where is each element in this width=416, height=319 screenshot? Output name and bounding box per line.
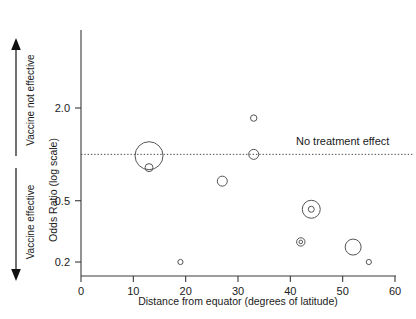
- vaccine-effective-label: Vaccine effective: [25, 184, 36, 259]
- data-point: [345, 239, 361, 255]
- data-point: [145, 164, 153, 172]
- vaccine-not-effective-label: Vaccine not effective: [25, 54, 36, 146]
- vaccine-effective-annotation: Vaccine effective: [11, 168, 36, 281]
- axis-group: [81, 30, 396, 276]
- data-point: [217, 176, 227, 186]
- x-axis-title: Distance from equator (degrees of latitu…: [138, 295, 338, 307]
- down-arrow-head: [11, 269, 21, 281]
- data-point: [251, 115, 257, 121]
- data-point: [366, 259, 371, 264]
- data-point: [297, 238, 305, 246]
- y-tick-label: 0.2: [55, 256, 70, 268]
- data-point: [308, 206, 314, 212]
- data-point: [178, 259, 183, 264]
- y-tick-label: 2.0: [55, 102, 70, 114]
- data-point: [135, 142, 163, 170]
- data-point: [302, 200, 320, 218]
- x-tick-label: 60: [389, 285, 401, 297]
- x-tick-label: 50: [337, 285, 349, 297]
- up-arrow-head: [11, 38, 21, 50]
- data-point: [299, 240, 303, 244]
- chart-figure: 0102030405060 2.00.50.2 No treatment eff…: [0, 0, 416, 319]
- scatter-plot-canvas: 0102030405060 2.00.50.2 No treatment eff…: [0, 0, 416, 319]
- x-tick-label: 0: [78, 285, 84, 297]
- no-treatment-effect-label: No treatment effect: [296, 135, 389, 147]
- vaccine-not-effective-annotation: Vaccine not effective: [11, 38, 36, 156]
- x-axis-ticks: 0102030405060: [78, 276, 401, 297]
- y-axis-title: Odds Ratio (log scale): [47, 138, 59, 242]
